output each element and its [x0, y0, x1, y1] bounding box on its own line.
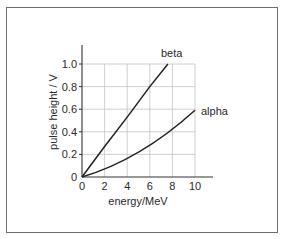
- x-tick-4: 4: [124, 180, 130, 192]
- y-tick-04: 0.4: [62, 126, 77, 138]
- x-tick-8: 8: [169, 180, 175, 192]
- y-tick-08: 0.8: [62, 81, 77, 93]
- beta-label: beta: [161, 47, 183, 59]
- x-tick-2: 2: [102, 180, 108, 192]
- y-axis-label: pulse height / V: [47, 73, 59, 149]
- x-axis-label: energy/MeV: [108, 195, 168, 207]
- grid: [82, 64, 195, 177]
- y-tick-02: 0.2: [62, 148, 77, 160]
- x-tick-6: 6: [147, 180, 153, 192]
- x-tick-10: 10: [189, 180, 201, 192]
- y-tick-06: 0.6: [62, 103, 77, 115]
- alpha-label: alpha: [201, 105, 229, 117]
- y-tick-0: 0: [71, 171, 77, 183]
- x-tick-0: 0: [79, 180, 85, 192]
- chart: 1.0 0.8 0.6 0.4 0.2 0 0 2 4 6 8 10 energ…: [0, 0, 284, 239]
- y-tick-1: 1.0: [62, 58, 77, 70]
- alpha-line: [82, 110, 195, 177]
